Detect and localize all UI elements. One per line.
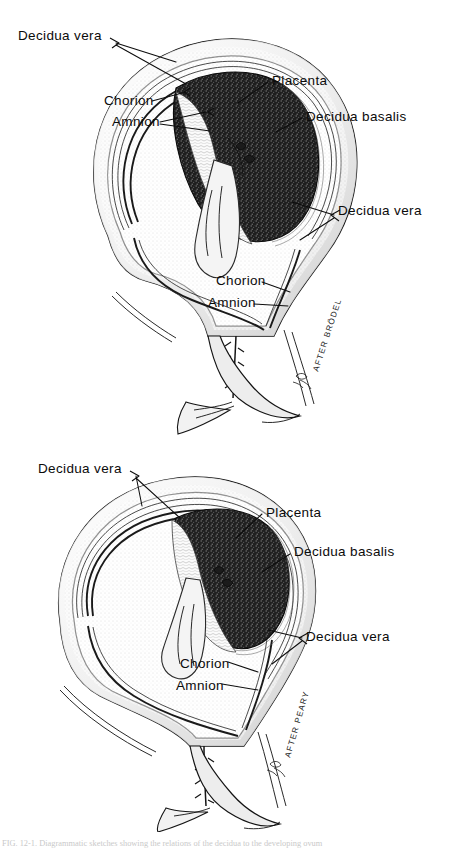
attribution-upper: AFTER BRÖDEL [293,297,343,389]
label-decidua-basalis-lower: Decidua basalis [294,544,395,559]
cervix-lower [157,732,286,832]
lower-uterus-illustration: Decidua vera Placenta Decidua basalis De… [0,440,450,832]
label-chorion-lower-upper: Chorion [216,273,266,288]
label-decidua-basalis-upper: Decidua basalis [306,109,407,124]
attribution-lower: AFTER PEARY [267,690,311,777]
label-amnion-upper: Amnion [112,114,160,129]
figure-caption: FIG. 12-1. Diagrammatic sketches showing… [0,838,450,849]
label-placenta-upper: Placenta [272,73,327,88]
attribution-text-upper: AFTER BRÖDEL [310,297,343,372]
label-chorion-lower: Chorion [180,656,230,671]
label-decidua-vera-right-upper: Decidua vera [338,203,422,218]
label-amnion-lower: Amnion [176,678,224,693]
figure-caption-strip: FIG. 12-1. Diagrammatic sketches showing… [0,838,450,849]
artist-signature-upper [293,373,311,389]
attribution-text-lower: AFTER PEARY [283,690,311,759]
label-placenta-lower: Placenta [266,505,321,520]
label-decidua-vera-right-lower: Decidua vera [306,629,390,644]
upper-uterus-illustration: Decidua vera Chorion Amnion Placenta Dec… [0,0,450,440]
label-decidua-vera-top: Decidua vera [18,28,102,43]
label-chorion-upper: Chorion [104,93,154,108]
anatomical-figure-page: Decidua vera Chorion Amnion Placenta Dec… [0,0,450,849]
label-amnion-lower-upper: Amnion [208,295,256,310]
label-decidua-vera-top-lower: Decidua vera [38,461,122,476]
